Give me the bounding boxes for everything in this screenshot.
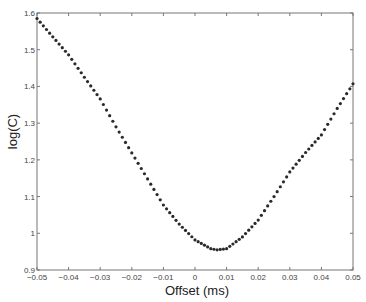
data-point [162,203,165,206]
data-point [266,204,269,207]
data-point [339,102,342,105]
x-tick-label: 0.04 [314,273,330,282]
data-point [298,159,301,162]
data-point [288,170,291,173]
data-point [291,166,294,169]
data-point [241,235,244,238]
x-tick-label: 0.01 [219,273,235,282]
data-point [190,235,193,238]
data-point [111,120,114,123]
data-point [137,162,140,165]
data-point [187,232,190,235]
y-tick-label: 1 [31,229,36,238]
y-tick-label: 0.9 [24,266,36,275]
data-point [206,245,209,248]
x-tick-label: −0.03 [90,273,111,282]
data-point [165,207,168,210]
data-point [279,185,282,188]
data-point [231,242,234,245]
data-point [42,24,45,27]
data-point [348,87,351,90]
data-point [320,133,323,136]
data-point [149,183,152,186]
data-point [133,156,136,159]
y-tick-label: 1.1 [24,193,36,202]
data-point [329,117,332,120]
y-tick-label: 1.5 [24,46,36,55]
data-point [184,229,187,232]
data-point [121,136,124,139]
data-point [86,80,89,83]
data-point [282,180,285,183]
data-point [124,141,127,144]
data-point [114,125,117,128]
data-point [127,146,130,149]
data-point [307,147,310,150]
data-point [146,177,149,180]
x-tick-label: 0 [193,273,198,282]
data-point [351,82,354,85]
scatter-chart: −0.05−0.04−0.03−0.02−0.0100.010.020.030.… [0,0,366,302]
data-point [197,240,200,243]
data-point [257,218,260,221]
x-axis-label: Offset (ms) [165,283,229,298]
data-point [102,103,105,106]
data-point [234,240,237,243]
data-point [253,222,256,225]
y-tick-label: 1.2 [24,156,36,165]
data-point [326,123,329,126]
data-point [336,107,339,110]
data-point [48,32,51,35]
data-point [54,39,57,42]
data-point [247,229,250,232]
data-point [67,53,70,56]
data-point [118,130,121,133]
y-tick-label: 1.4 [24,82,36,91]
x-tick-label: 0.03 [282,273,298,282]
data-point [263,209,266,212]
data-point [238,238,241,241]
data-point [342,97,345,100]
data-points [35,17,354,251]
data-point [250,225,253,228]
data-point [92,89,95,92]
data-point [51,35,54,38]
data-point [76,67,79,70]
data-point [272,195,275,198]
x-tick-label: 0.05 [345,273,361,282]
data-point [212,248,215,251]
x-tick-label: −0.02 [122,273,143,282]
data-point [301,155,304,158]
data-point [105,108,108,111]
data-point [332,112,335,115]
data-point [295,163,298,166]
data-point [155,193,158,196]
x-tick-label: 0.02 [250,273,266,282]
data-point [108,114,111,117]
data-point [39,21,42,24]
data-point [225,247,228,250]
data-point [143,172,146,175]
data-point [216,248,219,251]
data-point [159,198,162,201]
data-point [285,175,288,178]
data-point [323,128,326,131]
data-point [64,50,67,53]
x-tick-label: −0.01 [153,273,174,282]
data-point [304,151,307,154]
data-point [174,219,177,222]
data-point [317,137,320,140]
data-point [219,248,222,251]
data-point [345,92,348,95]
x-axis-ticks: −0.05−0.04−0.03−0.02−0.0100.010.020.030.… [27,13,361,282]
data-point [70,58,73,61]
data-point [73,62,76,65]
data-point [276,190,279,193]
data-point [193,238,196,241]
x-tick-label: −0.04 [58,273,79,282]
data-point [200,242,203,245]
y-axis-label: log(C) [5,114,20,149]
data-point [130,151,133,154]
data-point [313,140,316,143]
data-point [222,247,225,250]
